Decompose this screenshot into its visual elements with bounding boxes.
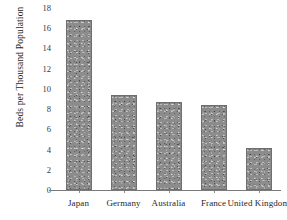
x-axis-tick-mark xyxy=(124,191,125,193)
bar-group xyxy=(201,8,227,190)
y-axis-tick-label: 18 xyxy=(42,4,51,13)
x-axis-tick-mark xyxy=(169,191,170,193)
x-axis-tick-mark xyxy=(214,191,215,193)
y-axis-tick-label: 14 xyxy=(42,44,51,53)
x-axis-category-label: Germany xyxy=(106,198,140,208)
bar-group xyxy=(111,8,137,190)
y-axis-tick-label: 12 xyxy=(42,64,51,73)
bar-group xyxy=(246,8,272,190)
y-axis-tick-label: 2 xyxy=(47,165,51,174)
bar xyxy=(156,102,182,190)
x-axis-category-label: United Kingdom xyxy=(227,198,287,208)
x-axis-category-label: Japan xyxy=(68,198,89,208)
y-axis-tick-label: 16 xyxy=(42,24,51,33)
y-axis-tick-label: 6 xyxy=(47,125,51,134)
x-axis-line xyxy=(49,190,281,191)
bar xyxy=(246,148,272,190)
x-axis-category-label: Australia xyxy=(152,198,186,208)
bar-chart: Beds per Thousand Population 02468101214… xyxy=(0,0,287,220)
y-axis-tick-label: 10 xyxy=(42,85,51,94)
x-axis-tick-mark xyxy=(259,191,260,193)
bar xyxy=(66,20,92,190)
bar-group xyxy=(66,8,92,190)
y-axis-tick-label: 4 xyxy=(47,145,51,154)
y-axis-title: Beds per Thousand Population xyxy=(15,0,25,147)
plot-area: 024681012141618 JapanGermanyAustraliaFra… xyxy=(56,8,281,190)
bar-group xyxy=(156,8,182,190)
bar xyxy=(201,105,227,190)
x-axis-tick-mark xyxy=(79,191,80,193)
y-axis-tick-label: 8 xyxy=(47,105,51,114)
bar xyxy=(111,95,137,190)
x-axis-category-label: France xyxy=(201,198,226,208)
